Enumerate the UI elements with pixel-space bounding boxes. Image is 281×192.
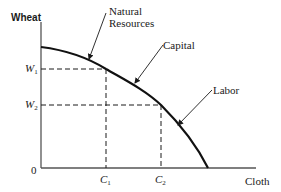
natural-resources-arrow (89, 13, 106, 59)
c1-subscript: 1 (107, 179, 111, 187)
capital-label: Capital (163, 40, 195, 51)
origin-label: 0 (31, 165, 37, 176)
capital-arrow (135, 45, 163, 83)
natural-resources-line2: Resources (109, 17, 154, 29)
c2-label: C2 (155, 174, 166, 187)
ppf-curve (41, 47, 208, 168)
x-axis-label: Cloth (245, 176, 269, 187)
w1-subscript: 1 (34, 68, 38, 76)
labor-label: Labor (213, 85, 239, 96)
c1-label: C1 (100, 174, 111, 187)
labor-arrow (178, 90, 212, 125)
w1-label: W1 (25, 63, 38, 76)
w2-label: W2 (25, 99, 38, 112)
natural-resources-line1: Natural (109, 5, 154, 17)
w2-subscript: 2 (34, 104, 38, 112)
natural-resources-label: Natural Resources (109, 5, 154, 29)
w2-main: W (25, 98, 34, 110)
w1-main: W (25, 62, 34, 74)
y-axis-label: Wheat (11, 13, 41, 23)
c2-subscript: 2 (162, 179, 166, 187)
